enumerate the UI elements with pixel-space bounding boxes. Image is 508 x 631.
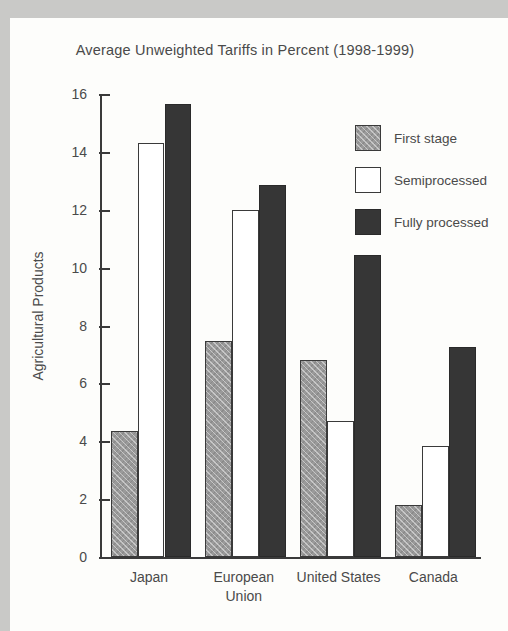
- bar-group: [205, 94, 286, 557]
- y-axis-tick-label: 12: [71, 202, 87, 218]
- y-axis-tick-label: 14: [71, 144, 87, 160]
- bar-fully-processed: [259, 185, 286, 557]
- bar-fully-processed: [449, 347, 476, 557]
- legend-item-semiprocessed: Semiprocessed: [355, 162, 489, 198]
- bar-fully-processed: [165, 104, 192, 557]
- y-axis-tick-label: 6: [79, 375, 87, 391]
- legend-label-first-stage: First stage: [394, 131, 457, 146]
- page-background: Average Unweighted Tariffs in Percent (1…: [10, 18, 508, 631]
- y-axis-tick: 0: [99, 557, 110, 559]
- bar-first-stage: [300, 360, 327, 557]
- legend-item-first-stage: First stage: [355, 120, 489, 156]
- x-axis-label-canada: Canada: [375, 568, 492, 587]
- legend-swatch-semiprocessed: [355, 167, 381, 193]
- y-axis-tick-label: 10: [71, 260, 87, 276]
- bar-first-stage: [111, 431, 138, 557]
- legend-swatch-first-stage: [355, 125, 381, 151]
- y-axis-label: Agricultural Products: [30, 216, 46, 416]
- bar-group: [111, 94, 192, 557]
- y-axis-tick-label: 2: [79, 491, 87, 507]
- x-axis-line: [100, 557, 481, 559]
- y-axis-tick-label: 16: [71, 86, 87, 102]
- y-axis-tick-label: 4: [79, 433, 87, 449]
- legend-swatch-fully-processed: [355, 209, 381, 235]
- bar-semiprocessed: [422, 446, 449, 557]
- bar-first-stage: [205, 341, 232, 557]
- chart-legend: First stage Semiprocessed Fully processe…: [355, 120, 489, 246]
- bar-semiprocessed: [232, 210, 259, 557]
- y-axis-tick-label: 0: [79, 549, 87, 565]
- bar-semiprocessed: [138, 143, 165, 557]
- bar-first-stage: [395, 505, 422, 557]
- bar-chart: Average Unweighted Tariffs in Percent (1…: [10, 18, 508, 631]
- bar-semiprocessed: [327, 421, 354, 557]
- y-axis-tick-label: 8: [79, 318, 87, 334]
- bar-fully-processed: [354, 255, 381, 557]
- legend-label-semiprocessed: Semiprocessed: [394, 173, 487, 188]
- chart-title: Average Unweighted Tariffs in Percent (1…: [10, 42, 480, 58]
- legend-label-fully-processed: Fully processed: [394, 215, 489, 230]
- legend-item-fully-processed: Fully processed: [355, 204, 489, 240]
